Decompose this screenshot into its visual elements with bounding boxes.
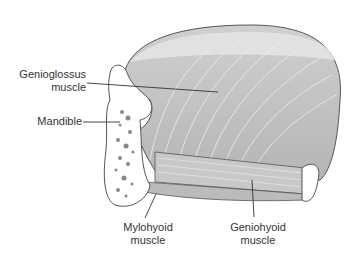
label-mylohyoid: Mylohyoid muscle [108,221,188,247]
label-line: muscle [0,81,86,94]
label-line: muscle [218,234,298,247]
label-line: muscle [108,234,188,247]
label-line: Mylohyoid [108,221,188,234]
label-mandible: Mandible [0,115,82,128]
anatomy-illustration [0,0,360,258]
label-geniohyoid: Geniohyoid muscle [218,221,298,247]
label-line: Genioglossus [0,68,86,81]
hyoid-bone-shape [302,164,319,201]
label-line: Geniohyoid [218,221,298,234]
label-genioglossus: Genioglossus muscle [0,68,86,94]
